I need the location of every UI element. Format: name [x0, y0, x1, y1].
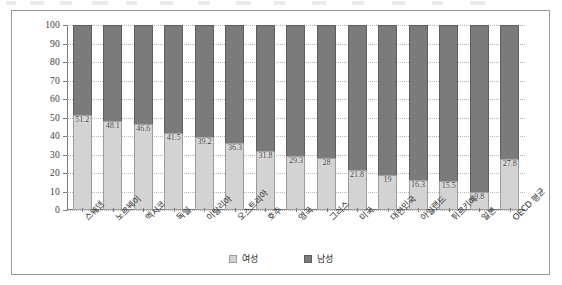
bar-segment-male[interactable]	[256, 25, 275, 151]
scan-artifact-strip	[0, 0, 562, 8]
stacked-bar[interactable]: 29.3	[286, 25, 305, 210]
stacked-bar[interactable]: 15.5	[439, 25, 458, 210]
bar-segment-male[interactable]	[73, 25, 92, 115]
y-axis-tick-label: 90	[50, 39, 60, 49]
y-axis-tick-label: 70	[50, 76, 60, 86]
stacked-bar[interactable]: 36.3	[225, 25, 244, 210]
legend-item-female: 여성	[229, 252, 258, 265]
y-axis-tick-label: 20	[50, 168, 60, 178]
stacked-bar[interactable]: 51.2	[73, 25, 92, 210]
legend-label-male: 남성	[317, 252, 333, 265]
bar-value-label: 51.2	[75, 115, 89, 124]
bar-segment-male[interactable]	[225, 25, 244, 143]
chart-frame: 0102030405060708090100 51.248.146.641.53…	[11, 10, 550, 275]
bar-series-container: 51.248.146.641.539.236.331.829.32821.819…	[67, 25, 525, 210]
bar-segment-male[interactable]	[103, 25, 122, 121]
stacked-bar[interactable]: 21.8	[348, 25, 367, 210]
stacked-bar[interactable]: 46.6	[134, 25, 153, 210]
bar-value-label: 31.8	[258, 151, 272, 160]
y-axis-tick-label: 30	[50, 150, 60, 160]
bar-segment-female[interactable]: 21.8	[348, 170, 367, 210]
y-axis-tick-label: 50	[50, 113, 60, 123]
legend-label-female: 여성	[242, 252, 258, 265]
stacked-bar[interactable]: 31.8	[256, 25, 275, 210]
bar-value-label: 39.2	[197, 137, 211, 146]
bar-segment-female[interactable]: 28	[317, 158, 336, 210]
bar-segment-male[interactable]	[500, 25, 519, 159]
bar-segment-male[interactable]	[409, 25, 428, 180]
chart-screenshot: 0102030405060708090100 51.248.146.641.53…	[0, 0, 562, 285]
stacked-bar[interactable]: 39.2	[195, 25, 214, 210]
bar-segment-female[interactable]: 48.1	[103, 121, 122, 210]
bar-segment-male[interactable]	[286, 25, 305, 156]
bar-value-label: 41.5	[167, 133, 181, 142]
y-axis-tick-label: 80	[50, 57, 60, 67]
y-axis-tick	[63, 210, 67, 211]
bar-segment-male[interactable]	[348, 25, 367, 170]
bar-value-label: 28	[323, 158, 331, 167]
bar-value-label: 21.8	[350, 170, 364, 179]
bar-segment-female[interactable]: 27.8	[500, 159, 519, 210]
y-axis-tick-label: 100	[45, 20, 60, 30]
plot-area: 0102030405060708090100 51.248.146.641.53…	[67, 25, 525, 210]
stacked-bar[interactable]: 27.8	[500, 25, 519, 210]
stacked-bar[interactable]: 19	[378, 25, 397, 210]
bar-segment-male[interactable]	[439, 25, 458, 181]
stacked-bar[interactable]: 41.5	[164, 25, 183, 210]
bar-value-label: 16.3	[411, 180, 425, 189]
stacked-bar[interactable]: 48.1	[103, 25, 122, 210]
y-axis-tick-label: 0	[55, 205, 60, 215]
y-axis-tick-label: 40	[50, 131, 60, 141]
bar-segment-male[interactable]	[134, 25, 153, 124]
chart-legend: 여성 남성	[12, 252, 549, 265]
bar-value-label: 36.3	[228, 143, 242, 152]
bar-segment-female[interactable]: 51.2	[73, 115, 92, 210]
bar-segment-female[interactable]: 19	[378, 175, 397, 210]
legend-swatch-female-icon	[229, 255, 237, 263]
bar-segment-male[interactable]	[378, 25, 397, 175]
bar-value-label: 46.6	[136, 124, 150, 133]
stacked-bar[interactable]: 9.8	[470, 25, 489, 210]
bar-value-label: 48.1	[106, 121, 120, 130]
bar-value-label: 29.3	[289, 156, 303, 165]
bar-segment-male[interactable]	[195, 25, 214, 137]
legend-item-male: 남성	[304, 252, 333, 265]
bar-segment-male[interactable]	[317, 25, 336, 158]
bar-segment-male[interactable]	[470, 25, 489, 192]
bar-segment-female[interactable]: 39.2	[195, 137, 214, 210]
y-axis-tick-label: 60	[50, 94, 60, 104]
bar-segment-female[interactable]: 41.5	[164, 133, 183, 210]
stacked-bar[interactable]: 28	[317, 25, 336, 210]
bar-segment-male[interactable]	[164, 25, 183, 133]
legend-swatch-male-icon	[304, 255, 312, 263]
bar-value-label: 15.5	[442, 181, 456, 190]
bar-value-label: 27.8	[503, 159, 517, 168]
y-axis-tick-label: 10	[50, 187, 60, 197]
stacked-bar[interactable]: 16.3	[409, 25, 428, 210]
bar-value-label: 19	[384, 175, 392, 184]
bar-segment-female[interactable]: 29.3	[286, 156, 305, 210]
